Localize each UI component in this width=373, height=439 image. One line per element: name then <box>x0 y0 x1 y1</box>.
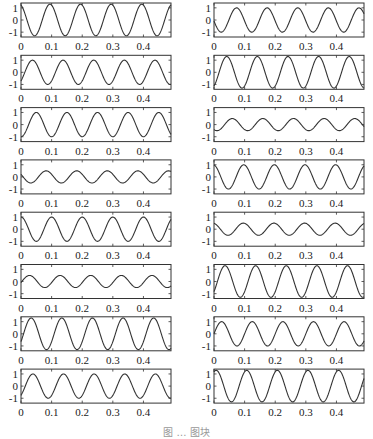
axes-frame <box>21 265 171 299</box>
y-tick-label: 0 <box>206 328 212 340</box>
y-tick-label: 1 <box>206 159 212 171</box>
x-tick-label: 0.1 <box>45 249 59 261</box>
y-tick-label: 1 <box>206 2 212 14</box>
x-tick-label: 0.4 <box>330 197 344 209</box>
y-tick-label: 0 <box>206 171 212 183</box>
subplot-left-5: 00.10.20.30.4-101 <box>9 211 171 261</box>
x-tick-label: 0.1 <box>238 92 252 104</box>
x-tick-label: 0.3 <box>299 302 313 314</box>
subplot-right-2: 00.10.20.30.4-101 <box>202 54 364 104</box>
x-tick-label: 0.2 <box>75 197 89 209</box>
subplot-left-8: 00.10.20.30.4-101 <box>9 368 171 418</box>
signal-line <box>214 8 364 32</box>
axes-frame <box>214 108 364 142</box>
y-tick-label: 0 <box>206 66 212 78</box>
x-tick-label: 0.1 <box>45 354 59 366</box>
x-tick-label: 0.4 <box>137 92 151 104</box>
subplot-right-6: 00.10.20.30.4-101 <box>202 263 364 313</box>
signal-line <box>21 318 171 350</box>
x-tick-label: 0.3 <box>299 145 313 157</box>
signal-line <box>21 275 171 287</box>
axes-frame <box>21 160 171 194</box>
x-tick-label: 0.2 <box>268 40 282 52</box>
x-tick-label: 0.3 <box>299 92 313 104</box>
signal-line <box>214 57 364 89</box>
y-tick-label: 1 <box>13 2 19 14</box>
x-tick-label: 0.1 <box>238 406 252 418</box>
subplot-left-4: 00.10.20.30.4-101 <box>9 159 171 209</box>
x-tick-label: 0.3 <box>299 406 313 418</box>
x-tick-label: 0.4 <box>330 302 344 314</box>
y-tick-label: 1 <box>13 54 19 66</box>
x-tick-label: 0.4 <box>137 197 151 209</box>
y-tick-label: -1 <box>9 340 18 352</box>
x-tick-label: 0.1 <box>45 406 59 418</box>
y-tick-label: -1 <box>9 288 18 300</box>
x-tick-label: 0.2 <box>75 249 89 261</box>
y-tick-label: 1 <box>206 54 212 66</box>
y-tick-label: 1 <box>13 211 19 223</box>
x-tick-label: 0.4 <box>330 406 344 418</box>
signal-line <box>214 370 364 402</box>
x-tick-label: 0.3 <box>106 92 120 104</box>
subplot-right-8: 00.10.20.30.4-101 <box>202 368 364 418</box>
x-tick-label: 0.2 <box>75 40 89 52</box>
y-tick-label: -1 <box>202 235 211 247</box>
x-tick-label: 0.2 <box>268 302 282 314</box>
x-tick-label: 0.4 <box>330 354 344 366</box>
signal-line <box>21 112 171 136</box>
signal-line <box>214 223 364 235</box>
x-tick-label: 0 <box>18 406 24 418</box>
x-tick-label: 0 <box>211 354 217 366</box>
y-tick-label: 0 <box>13 380 19 392</box>
y-tick-label: 1 <box>13 263 19 275</box>
y-tick-label: 0 <box>206 223 212 235</box>
y-tick-label: 0 <box>13 328 19 340</box>
signal-line <box>21 60 171 84</box>
x-tick-label: 0.4 <box>137 145 151 157</box>
x-tick-label: 0 <box>18 40 24 52</box>
y-tick-label: 1 <box>206 316 212 328</box>
y-tick-label: 0 <box>13 66 19 78</box>
y-tick-label: 1 <box>13 106 19 118</box>
signal-line <box>21 217 171 241</box>
x-tick-label: 0 <box>211 92 217 104</box>
y-tick-label: -1 <box>202 78 211 90</box>
y-tick-label: 1 <box>206 368 212 380</box>
y-tick-label: -1 <box>9 235 18 247</box>
x-tick-label: 0.4 <box>330 92 344 104</box>
y-tick-label: -1 <box>202 288 211 300</box>
subplot-right-3: 00.10.20.30.4-101 <box>202 106 364 156</box>
x-tick-label: 0.3 <box>106 145 120 157</box>
x-tick-label: 0.2 <box>75 302 89 314</box>
x-tick-label: 0.4 <box>137 302 151 314</box>
x-tick-label: 0.1 <box>45 40 59 52</box>
y-tick-label: -1 <box>9 183 18 195</box>
axes-frame <box>21 55 171 89</box>
y-tick-label: 0 <box>13 276 19 288</box>
x-tick-label: 0 <box>18 302 24 314</box>
x-tick-label: 0.4 <box>137 406 151 418</box>
subplot-right-1: 00.10.20.30.4-101 <box>202 2 364 52</box>
y-tick-label: 0 <box>13 119 19 131</box>
subplot-left-6: 00.10.20.30.4-101 <box>9 263 171 313</box>
x-tick-label: 0 <box>18 354 24 366</box>
y-tick-label: 0 <box>13 171 19 183</box>
y-tick-label: -1 <box>202 392 211 404</box>
x-tick-label: 0 <box>211 197 217 209</box>
x-tick-label: 0.2 <box>75 406 89 418</box>
y-tick-label: 0 <box>13 223 19 235</box>
x-tick-label: 0.2 <box>268 145 282 157</box>
x-tick-label: 0.3 <box>106 249 120 261</box>
subplot-left-3: 00.10.20.30.4-101 <box>9 106 171 156</box>
x-tick-label: 0.2 <box>268 197 282 209</box>
x-tick-label: 0.2 <box>75 145 89 157</box>
y-tick-label: 0 <box>206 119 212 131</box>
x-tick-label: 0.4 <box>330 40 344 52</box>
x-tick-label: 0.3 <box>106 302 120 314</box>
x-tick-label: 0.4 <box>330 249 344 261</box>
x-tick-label: 0.1 <box>238 197 252 209</box>
x-tick-label: 0.2 <box>268 406 282 418</box>
x-tick-label: 0.3 <box>106 40 120 52</box>
